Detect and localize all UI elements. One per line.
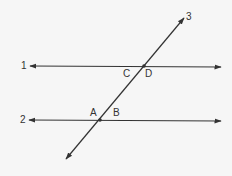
line-1 [30, 66, 221, 67]
diagram-canvas: 1 2 3 C D A B [0, 0, 232, 176]
intersection-point-lower [98, 118, 102, 122]
angle-label-b: B [113, 108, 120, 118]
angle-label-c: C [123, 69, 130, 79]
line-3-label: 3 [186, 12, 192, 22]
diagram-lines [0, 0, 232, 176]
line-1-label: 1 [21, 61, 27, 71]
line-2 [29, 120, 221, 121]
angle-label-a: A [90, 108, 97, 118]
angle-label-d: D [145, 69, 152, 79]
line-3-transversal [66, 18, 184, 159]
line-2-label: 2 [20, 115, 26, 125]
